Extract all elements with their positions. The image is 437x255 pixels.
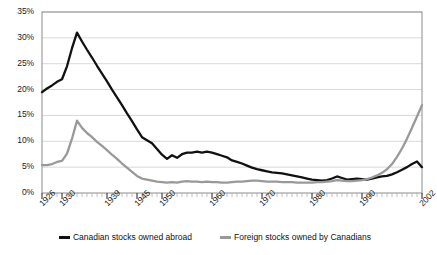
legend-swatch-icon xyxy=(220,236,231,239)
plot-border xyxy=(42,12,422,193)
legend-label: Canadian stocks owned abroad xyxy=(73,232,192,242)
legend-label: Foreign stocks owned by Canadians xyxy=(234,232,371,242)
legend-item: Canadian stocks owned abroad xyxy=(59,232,192,242)
legend-swatch-icon xyxy=(59,236,70,239)
chart-legend: Canadian stocks owned abroadForeign stoc… xyxy=(0,232,430,242)
series-line-1 xyxy=(42,33,422,181)
series-line-2 xyxy=(42,105,422,183)
legend-item: Foreign stocks owned by Canadians xyxy=(220,232,371,242)
